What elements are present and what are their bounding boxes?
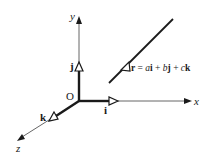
eq-plus-2: + [171,63,181,73]
line-r: r = ai + bj + ck [109,19,191,83]
r-hollow-arrow-icon [121,62,130,71]
i-hollow-arrow-icon [109,97,118,105]
j-hollow-arrow-icon [75,62,83,71]
y-axis-arrow-icon [76,16,82,24]
line-equation: r = ai + bj + ck [131,63,191,73]
x-axis-label: x [193,95,199,107]
j-label: j [69,60,74,72]
eq-k: k [185,63,191,73]
z-axis-label: z [15,142,21,154]
eq-equals: = [135,63,145,73]
unit-vector-i: i [79,97,118,116]
x-axis-arrow-icon [184,98,192,104]
unit-vector-k: k [40,101,79,123]
y-axis-label: y [69,10,75,22]
z-axis: z [15,101,79,154]
i-label: i [104,104,107,116]
k-hollow-arrow-icon [49,112,58,121]
origin-label: O [66,90,74,102]
z-axis-arrow-icon [17,134,25,141]
k-label: k [40,111,47,123]
vector-diagram: y x z j i k O r = ai + bj + ck [0,0,215,165]
eq-plus-1: + [153,63,163,73]
